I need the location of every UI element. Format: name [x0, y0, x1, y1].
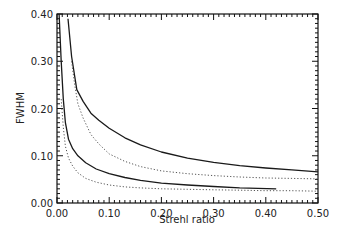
data-series: [59, 14, 318, 191]
axes-frame: [57, 14, 318, 203]
y-tick-label: 0.20: [31, 104, 53, 115]
x-tick-label: 0.00: [46, 208, 68, 219]
x-tick-label: 0.50: [307, 208, 329, 219]
x-tick-label: 0.10: [98, 208, 120, 219]
axis-ticks: [57, 14, 318, 203]
plot-border: [57, 14, 318, 203]
y-tick-label: 0.00: [31, 198, 53, 209]
y-tick-label: 0.10: [31, 151, 53, 162]
series-lower-solid: [59, 14, 276, 189]
x-axis-title: Strehl ratio: [159, 214, 215, 225]
x-tick-label: 0.40: [255, 208, 277, 219]
y-tick-label: 0.30: [31, 56, 53, 67]
series-upper-solid: [68, 19, 318, 172]
y-axis-title: FWHM: [15, 92, 26, 124]
y-tick-label: 0.40: [31, 9, 53, 20]
series-upper-dotted: [72, 61, 318, 179]
tick-labels: 0.000.100.200.300.400.500.000.100.200.30…: [31, 9, 329, 219]
fwhm-vs-strehl-chart: 0.000.100.200.300.400.500.000.100.200.30…: [0, 0, 344, 238]
